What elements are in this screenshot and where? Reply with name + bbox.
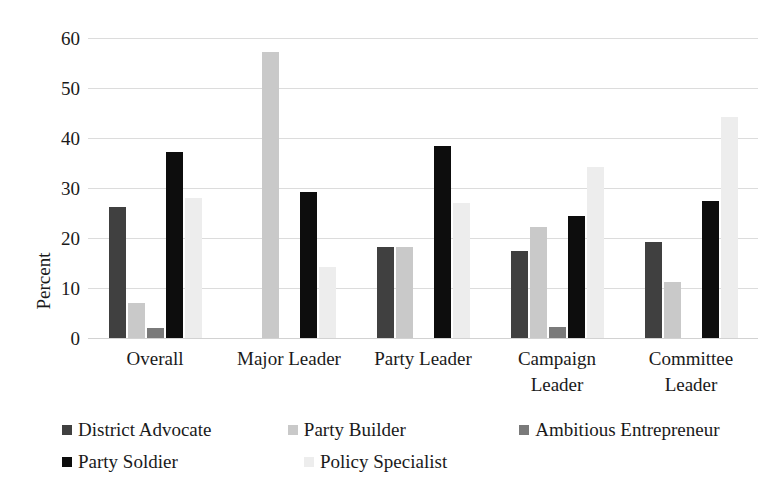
bar-group [490, 38, 624, 338]
legend-swatch-icon [62, 425, 72, 435]
legend-item[interactable]: Ambitious Entrepreneur [519, 420, 762, 439]
x-axis-label: Party Leader [356, 346, 490, 372]
bar [702, 201, 719, 339]
legend-item-label: Party Builder [304, 420, 406, 439]
x-axis-label: CampaignLeader [490, 346, 624, 398]
bar [645, 242, 662, 339]
legend-row: Party SoldierPolicy Specialist [62, 452, 762, 484]
bar [262, 52, 279, 338]
bar [128, 303, 145, 338]
plot-area [88, 38, 758, 338]
bar [568, 216, 585, 338]
legend-item-label: District Advocate [78, 420, 212, 439]
y-axis-tick-0: 0 [40, 329, 80, 348]
grouped-bar-chart: Percent 6050403020100 OverallMajor Leade… [0, 0, 781, 500]
legend-item-label: Ambitious Entrepreneur [535, 420, 719, 439]
legend-item-label: Party Soldier [78, 452, 178, 471]
x-axis-label: Overall [88, 346, 222, 372]
y-axis-tick-30: 30 [40, 179, 80, 198]
bar [434, 146, 451, 339]
bar [511, 251, 528, 338]
bar [377, 247, 394, 339]
bar [396, 247, 413, 339]
legend-swatch-icon [288, 425, 298, 435]
legend-swatch-icon [62, 457, 72, 467]
legend-swatch-icon [304, 457, 314, 467]
bar-group [88, 38, 222, 338]
bar-group [624, 38, 758, 338]
legend-item[interactable]: District Advocate [62, 420, 288, 439]
bar [664, 282, 681, 339]
y-axis-tick-40: 40 [40, 129, 80, 148]
legend-item[interactable]: Party Builder [288, 420, 519, 439]
y-axis-tick-50: 50 [40, 79, 80, 98]
bar [166, 152, 183, 338]
chart-legend: District AdvocateParty BuilderAmbitious … [62, 420, 762, 484]
gridline-0 [88, 338, 758, 339]
bar [109, 207, 126, 338]
bar [319, 267, 336, 339]
x-axis-category-labels: OverallMajor LeaderParty LeaderCampaignL… [88, 346, 758, 406]
legend-row: District AdvocateParty BuilderAmbitious … [62, 420, 762, 452]
y-axis-tick-10: 10 [40, 279, 80, 298]
y-axis-tick-60: 60 [40, 29, 80, 48]
bar [587, 167, 604, 339]
bar [530, 227, 547, 339]
legend-item[interactable]: Policy Specialist [304, 452, 552, 471]
y-axis-tick-20: 20 [40, 229, 80, 248]
x-axis-label: CommitteeLeader [624, 346, 758, 398]
bar [721, 117, 738, 339]
legend-item-label: Policy Specialist [320, 452, 447, 471]
legend-item[interactable]: Party Soldier [62, 452, 304, 471]
legend-swatch-icon [519, 425, 529, 435]
bar-group [222, 38, 356, 338]
x-axis-label: Major Leader [222, 346, 356, 372]
bar [453, 203, 470, 338]
bar [147, 328, 164, 338]
bar [549, 327, 566, 338]
bar [300, 192, 317, 338]
bar [185, 198, 202, 338]
y-axis-tick-labels: 6050403020100 [28, 38, 80, 338]
bar-group [356, 38, 490, 338]
